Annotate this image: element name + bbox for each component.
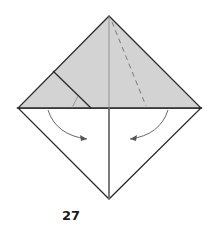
upper-colored-triangle [18,16,201,108]
origami-diagram [0,0,218,227]
step-number: 27 [62,208,80,223]
